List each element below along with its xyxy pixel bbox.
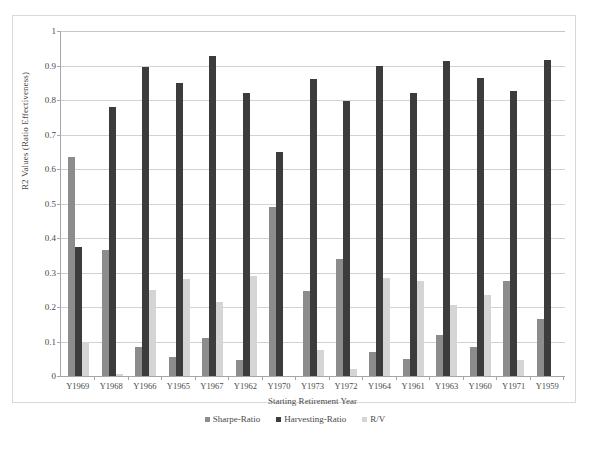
- bar-group-y1966: [129, 31, 162, 376]
- x-axis-tick-label: Y1973: [296, 381, 330, 391]
- bar: [243, 93, 250, 376]
- y-axis-tick-label: 0.9: [45, 61, 56, 71]
- bar: [336, 259, 343, 376]
- bar: [149, 290, 156, 376]
- bar-group-y1969: [62, 31, 95, 376]
- x-axis-tick-mark: [496, 376, 497, 380]
- y-axis-tick-mark: [57, 376, 61, 377]
- x-axis-title: Starting Retirement Year: [60, 396, 565, 406]
- x-axis-tick-label: Y1961: [396, 381, 430, 391]
- bar: [537, 319, 544, 376]
- bar: [82, 342, 89, 377]
- bar: [376, 66, 383, 377]
- legend-swatch-icon: [205, 417, 210, 422]
- bar: [75, 247, 82, 376]
- x-axis-tick-mark: [463, 376, 464, 380]
- y-axis-tick-label: 0.4: [45, 233, 56, 243]
- bar: [209, 56, 216, 376]
- bar-group-y1964: [363, 31, 396, 376]
- bar: [303, 291, 310, 376]
- x-axis-tick-label: Y1970: [262, 381, 296, 391]
- bar: [369, 352, 376, 376]
- bar: [417, 281, 424, 376]
- plot-area: 00.10.20.30.40.50.60.70.80.91: [60, 31, 565, 377]
- bar: [443, 61, 450, 376]
- bar: [544, 60, 551, 376]
- bar: [269, 207, 276, 376]
- bar: [503, 281, 510, 376]
- bar-group-y1962: [229, 31, 262, 376]
- x-axis-tick-label: Y1965: [162, 381, 196, 391]
- bar-series-container: [61, 31, 565, 376]
- y-axis-tick-label: 0.5: [45, 199, 56, 209]
- x-axis-tick-mark: [161, 376, 162, 380]
- x-axis-tick-label: Y1960: [463, 381, 497, 391]
- y-axis-title: R2 Values (Ratio Effectiveness): [20, 31, 30, 231]
- bar: [403, 359, 410, 376]
- bar: [250, 276, 257, 376]
- x-axis-tick-label: Y1969: [61, 381, 95, 391]
- legend-swatch-icon: [362, 417, 367, 422]
- bar-group-y1960: [464, 31, 497, 376]
- x-axis-tick-mark: [396, 376, 397, 380]
- plot-inner: 00.10.20.30.40.50.60.70.80.91: [60, 31, 565, 377]
- bar-group-y1968: [95, 31, 128, 376]
- bar: [109, 107, 116, 376]
- x-axis-tick-mark: [195, 376, 196, 380]
- x-axis-tick-labels: Y1969Y1968Y1966Y1965Y1967Y1962Y1970Y1973…: [60, 381, 565, 391]
- y-axis-tick-label: 0.7: [45, 130, 56, 140]
- x-axis-tick-label: Y1968: [95, 381, 129, 391]
- y-axis-tick-label: 0: [52, 371, 57, 381]
- bar: [142, 67, 149, 376]
- x-axis-tick-label: Y1971: [497, 381, 531, 391]
- bar-group-y1971: [497, 31, 530, 376]
- bar-group-y1973: [296, 31, 329, 376]
- x-axis-tick-label: Y1966: [128, 381, 162, 391]
- legend-label: Sharpe-Ratio: [213, 414, 261, 424]
- bar-group-y1967: [196, 31, 229, 376]
- bar: [517, 360, 524, 376]
- legend-label: R/V: [370, 414, 385, 424]
- bar: [317, 350, 324, 376]
- x-axis-tick-label: Y1959: [530, 381, 564, 391]
- x-axis-tick-mark: [94, 376, 95, 380]
- bar: [410, 93, 417, 376]
- y-axis-tick-label: 0.2: [45, 302, 56, 312]
- bar: [343, 101, 350, 376]
- y-axis-tick-label: 0.1: [45, 337, 56, 347]
- bar-group-y1972: [330, 31, 363, 376]
- bar-group-y1959: [531, 31, 564, 376]
- bar: [484, 295, 491, 376]
- x-axis-tick-mark: [295, 376, 296, 380]
- x-axis-tick-label: Y1972: [329, 381, 363, 391]
- bar: [102, 250, 109, 376]
- bar: [310, 79, 317, 376]
- x-axis-tick-mark: [429, 376, 430, 380]
- x-axis-tick-label: Y1963: [430, 381, 464, 391]
- chart-legend: Sharpe-RatioHarvesting-RatioR/V: [0, 414, 590, 424]
- bar: [216, 302, 223, 376]
- x-axis-tick-label: Y1962: [229, 381, 263, 391]
- bar: [436, 335, 443, 376]
- bar: [350, 369, 357, 376]
- bar: [202, 338, 209, 376]
- bar: [276, 152, 283, 376]
- x-axis-tick-label: Y1967: [195, 381, 229, 391]
- legend-item[interactable]: R/V: [362, 414, 385, 424]
- legend-item[interactable]: Harvesting-Ratio: [276, 414, 346, 424]
- bar: [135, 347, 142, 376]
- bar: [183, 279, 190, 376]
- legend-item[interactable]: Sharpe-Ratio: [205, 414, 261, 424]
- bar: [470, 347, 477, 376]
- bar-group-y1970: [263, 31, 296, 376]
- x-axis-tick-mark: [329, 376, 330, 380]
- x-axis-tick-mark: [228, 376, 229, 380]
- bar: [236, 360, 243, 376]
- bar: [176, 83, 183, 376]
- bar: [477, 78, 484, 376]
- bar: [116, 374, 123, 376]
- bar: [68, 157, 75, 376]
- x-axis-tick-mark: [563, 376, 564, 380]
- bar: [383, 278, 390, 376]
- bar: [450, 305, 457, 376]
